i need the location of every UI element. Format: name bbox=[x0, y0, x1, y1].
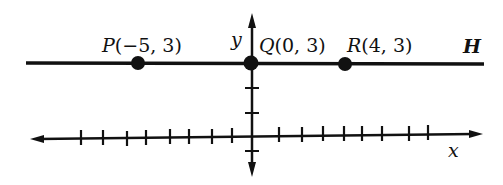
point-p bbox=[131, 56, 145, 70]
point-r bbox=[338, 57, 352, 71]
point-q-label: Q(0, 3) bbox=[259, 34, 326, 56]
y-axis-label: y bbox=[230, 28, 242, 50]
line-h-label: H bbox=[462, 35, 482, 57]
x-axis-left-arrow-icon bbox=[30, 135, 44, 143]
point-r-label: R(4, 3) bbox=[346, 34, 412, 56]
x-axis-label: x bbox=[448, 139, 459, 161]
coordinate-plane-diagram: P(−5, 3) y Q(0, 3) R(4, 3) H x bbox=[0, 0, 503, 185]
y-axis-down-arrow-icon bbox=[248, 162, 256, 177]
point-p-label: P(−5, 3) bbox=[101, 34, 182, 56]
x-axis-right-arrow-icon bbox=[469, 130, 483, 138]
y-axis bbox=[245, 13, 259, 177]
point-q bbox=[244, 56, 259, 71]
x-axis bbox=[30, 125, 483, 146]
y-axis-up-arrow-icon bbox=[248, 13, 256, 28]
